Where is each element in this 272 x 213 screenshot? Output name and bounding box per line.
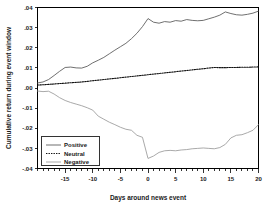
legend-label-positive: Positive xyxy=(64,142,88,148)
series-line-neutral xyxy=(38,67,259,85)
y-axis-ticks: .04.03.02.01.00-.01-.02-.03-.04 xyxy=(22,5,37,172)
y-tick-label: -.01 xyxy=(22,105,33,111)
y-tick-label: -.03 xyxy=(22,146,33,152)
x-tick-label: 20 xyxy=(255,176,262,182)
x-axis-title: Days around news event xyxy=(110,194,187,202)
x-axis-ticks: -15-10-505101520 xyxy=(61,169,263,182)
y-tick-label: .00 xyxy=(24,85,33,91)
y-tick-label: .02 xyxy=(24,45,33,51)
y-tick-label: .03 xyxy=(24,25,33,31)
legend-label-negative: Negative xyxy=(64,159,90,165)
x-tick-label: -5 xyxy=(118,176,124,182)
y-tick-label: .04 xyxy=(24,5,33,11)
x-tick-label: 15 xyxy=(228,176,235,182)
x-tick-label: -15 xyxy=(61,176,70,182)
chart-figure: .04.03.02.01.00-.01-.02-.03-.04 -15-10-5… xyxy=(0,0,272,213)
x-tick-label: 0 xyxy=(146,176,150,182)
x-tick-label: 10 xyxy=(200,176,207,182)
x-tick-label: 5 xyxy=(174,176,178,182)
y-tick-label: .01 xyxy=(24,65,33,71)
chart-legend: PositiveNeutralNegative xyxy=(42,137,100,166)
x-tick-label: -10 xyxy=(88,176,97,182)
y-tick-label: -.04 xyxy=(22,166,33,172)
cumulative-return-line-chart: .04.03.02.01.00-.01-.02-.03-.04 -15-10-5… xyxy=(0,0,272,213)
y-axis-title: Cumulative return during event window xyxy=(5,26,13,149)
series-line-positive xyxy=(38,11,259,83)
legend-label-neutral: Neutral xyxy=(64,151,85,157)
y-tick-label: -.02 xyxy=(22,125,33,131)
